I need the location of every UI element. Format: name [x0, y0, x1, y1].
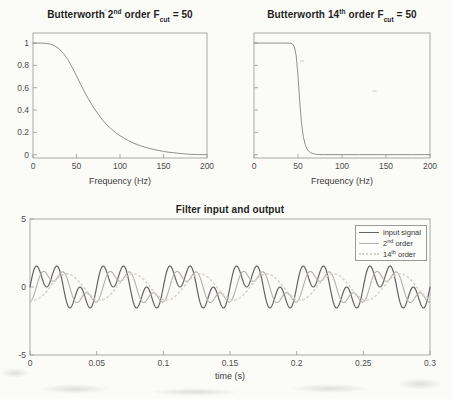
plot1-title: Butterworth 2nd order Fcut = 50 [33, 8, 207, 23]
plot2-title-post: = 50 [394, 9, 417, 20]
y-tick-label: 0.4 [17, 105, 29, 115]
figure-canvas: 05010015020000.20.40.60.8105010015020000… [0, 0, 452, 399]
y-tick-label: 5 [21, 214, 26, 224]
legend-item-14th-order: 14th order [359, 248, 423, 259]
x-tick-label: 200 [423, 161, 437, 171]
plot2-xlabel: Frequency (Hz) [254, 176, 430, 186]
legend-label: input signal [383, 227, 421, 237]
y-tick-label: 0.2 [17, 127, 29, 137]
order14-line-sample [359, 253, 379, 255]
y-tick-label: -5 [18, 350, 26, 360]
plot1-title-sub: cut [160, 16, 170, 23]
y-tick-label: 0.6 [17, 83, 29, 93]
legend-item-2nd-order: 2nd order [359, 238, 423, 249]
legend-label: 14th order [383, 249, 416, 259]
axes-box [33, 33, 207, 158]
series-magnitude-response-order-2 [33, 43, 207, 155]
plot2-title-mid: order F [346, 9, 384, 20]
plot2-title-sub: cut [384, 16, 394, 23]
legend-label-post: order [393, 239, 413, 248]
x-tick-label: 100 [335, 161, 349, 171]
plot3-title: Filter input and output [30, 204, 430, 215]
x-tick-label: 0.2 [291, 358, 303, 368]
x-tick-label: 0.3 [424, 358, 436, 368]
x-tick-label: 0 [28, 358, 33, 368]
x-tick-label: 0 [31, 161, 36, 171]
y-tick-label: 0.8 [17, 60, 29, 70]
butter2-axes: 05010015020000.20.40.60.81 [17, 33, 214, 171]
butter14-axes: 050100150200 [252, 33, 438, 171]
axes-box [254, 33, 430, 158]
x-tick-label: 0.1 [157, 358, 169, 368]
plot1-title-sup: nd [114, 8, 122, 15]
plot2-title: Butterworth 14th order Fcut = 50 [254, 8, 430, 23]
x-tick-label: 100 [113, 161, 127, 171]
x-tick-label: 0.15 [222, 358, 239, 368]
legend-item-input-signal: input signal [359, 227, 423, 238]
series-magnitude-response-order-14 [254, 43, 430, 155]
input-signal-line-sample [359, 232, 379, 233]
x-tick-label: 50 [293, 161, 303, 171]
x-tick-label: 200 [200, 161, 214, 171]
x-tick-label: 0.05 [88, 358, 105, 368]
x-tick-label: 150 [379, 161, 393, 171]
plot1-title-text: Butterworth 2 [47, 9, 113, 20]
plot3-xlabel: time (s) [30, 371, 430, 381]
scanned-matlab-figure: { "figure": { "description": "MATLAB fig… [0, 0, 452, 399]
legend-label-post: order [396, 250, 416, 259]
plot1-title-post: = 50 [170, 9, 193, 20]
y-tick-label: 0 [21, 282, 26, 292]
x-tick-label: 0 [252, 161, 257, 171]
legend: input signal 2nd order 14th order [355, 225, 427, 261]
y-tick-label: 0 [24, 150, 29, 160]
plot2-title-text: Butterworth 14 [267, 9, 339, 20]
y-tick-label: 1 [24, 38, 29, 48]
plot1-xlabel: Frequency (Hz) [33, 176, 207, 186]
x-tick-label: 50 [72, 161, 82, 171]
x-tick-label: 0.25 [355, 358, 372, 368]
legend-label: 2nd order [383, 238, 413, 248]
x-tick-label: 150 [156, 161, 170, 171]
figure-area: 05010015020000.20.40.60.8105010015020000… [0, 0, 452, 399]
order2-line-sample [359, 243, 379, 244]
plot1-title-mid: order F [122, 9, 160, 20]
legend-label-text: input signal [383, 228, 421, 237]
